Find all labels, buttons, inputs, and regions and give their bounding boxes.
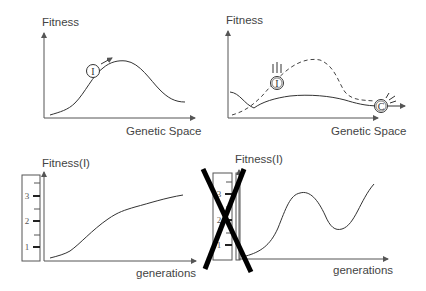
individual-marker-label: I (275, 78, 278, 89)
panel-bottom-left: Fitness(I) 3 2 1 generations (22, 157, 196, 279)
panel-bottom-right: Fitness(I) 3 2 1 generations (203, 153, 393, 276)
panel-top-left: Fitness Genetic Space I (42, 16, 201, 137)
x-axis-label: generations (136, 267, 196, 279)
previous-landscape-curve (232, 59, 375, 115)
x-axis-label: Genetic Space (331, 125, 406, 137)
scale-tick-2: 2 (25, 216, 30, 226)
diagram-canvas: Fitness Genetic Space I Fitness Genetic … (0, 0, 426, 291)
individual-marker-label: I (91, 66, 94, 77)
y-axis-label: Fitness (226, 14, 263, 26)
y-axis-label: Fitness(I) (235, 153, 283, 165)
scale-tick-1: 1 (25, 242, 30, 252)
fitness-over-generations-curve (50, 195, 183, 258)
fitness-landscape-curve (50, 61, 185, 115)
competitor-marker-label: C (378, 101, 385, 112)
falling-lines-icon (273, 62, 281, 73)
y-axis-label: Fitness (42, 16, 79, 28)
x-axis-label: Genetic Space (126, 125, 201, 137)
fitness-over-generations-curve (246, 184, 374, 256)
spark-icon (386, 93, 396, 103)
y-axis-label: Fitness(I) (42, 157, 90, 169)
scale-tick-3: 3 (25, 191, 30, 201)
current-landscape-curve (230, 92, 380, 108)
x-axis-label: generations (333, 264, 393, 276)
panel-top-right: Fitness Genetic Space I C (226, 14, 406, 137)
